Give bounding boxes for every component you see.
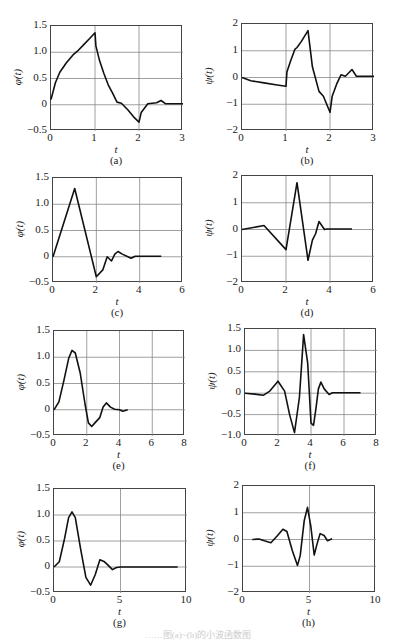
y-tick-label: 0 [17, 98, 47, 109]
y-tick-label: 2 [208, 17, 238, 28]
x-tick-label: 2 [85, 284, 105, 295]
y-axis-label: ψ(t) [203, 523, 215, 553]
y-axis-label: ψ(t) [202, 61, 214, 91]
x-tick-label: 0 [42, 284, 62, 295]
y-tick-label: 1 [208, 44, 238, 55]
x-tick-label: 2 [128, 132, 148, 143]
data-line [242, 31, 374, 113]
y-tick-label: 1.0 [211, 343, 241, 354]
panel-caption: (e) [99, 459, 139, 471]
x-tick-label: 2 [319, 132, 339, 143]
figure-footer: ……图(a)~(h)的小波函数图 [0, 628, 396, 641]
x-tick-label: 4 [300, 437, 320, 448]
plot-area [53, 330, 184, 435]
y-tick-label: −1 [208, 97, 238, 108]
x-tick-label: 2 [267, 437, 287, 448]
x-tick-label: 3 [363, 132, 383, 143]
plot-area [241, 23, 373, 130]
data-line [51, 33, 183, 122]
plot-area [244, 328, 376, 435]
y-tick-label: −1 [208, 249, 238, 260]
x-tick-label: 8 [366, 437, 386, 448]
y-axis-label: ψ(t) [205, 366, 217, 396]
x-tick-label: 3 [172, 132, 192, 143]
y-axis-label: φ(t) [14, 524, 26, 554]
x-tick-label: 10 [176, 594, 196, 605]
data-line [245, 335, 361, 433]
x-tick-label: 0 [232, 594, 252, 605]
x-tick-label: 0 [231, 132, 251, 143]
panel-caption: (g) [100, 616, 140, 628]
x-tick-label: 1 [84, 132, 104, 143]
y-axis-label: ψ(t) [202, 213, 214, 243]
y-tick-label: 1 [209, 506, 239, 517]
y-tick-label: 0 [20, 403, 50, 414]
x-tick-label: 2 [76, 437, 96, 448]
panel-caption: (d) [287, 306, 327, 318]
y-tick-label: 2 [208, 169, 238, 180]
x-tick-label: 2 [275, 284, 295, 295]
x-tick-label: 0 [231, 284, 251, 295]
y-tick-label: −1 [209, 559, 239, 570]
y-tick-label: 2 [209, 479, 239, 490]
data-line [54, 350, 128, 426]
y-tick-label: 1.5 [17, 19, 47, 30]
y-tick-label: 1.0 [20, 350, 50, 361]
panel-caption: (f) [290, 459, 330, 471]
y-tick-label: −0.5 [211, 408, 241, 419]
y-tick-label: 1.0 [17, 45, 47, 56]
data-line [53, 189, 161, 277]
panel-caption: (c) [97, 306, 137, 318]
x-tick-label: 6 [141, 437, 161, 448]
y-axis-label: φ(t) [14, 367, 26, 397]
y-tick-label: 1.5 [19, 171, 49, 182]
panel-caption: (h) [289, 616, 329, 628]
plot-area [242, 485, 375, 592]
y-tick-label: 1.0 [19, 197, 49, 208]
panel-caption: (a) [96, 154, 136, 166]
y-tick-label: 0 [19, 250, 49, 261]
plot-area [53, 488, 186, 592]
x-tick-label: 8 [174, 437, 194, 448]
x-tick-label: 5 [299, 594, 319, 605]
x-tick-label: 0 [43, 437, 63, 448]
data-line [252, 507, 332, 565]
y-tick-label: 1.5 [20, 324, 50, 335]
x-tick-label: 4 [109, 437, 129, 448]
y-tick-label: 0 [20, 560, 50, 571]
panel-caption: (b) [287, 154, 327, 166]
x-tick-label: 10 [365, 594, 385, 605]
x-tick-label: 4 [129, 284, 149, 295]
x-tick-label: 0 [40, 132, 60, 143]
plot-area [52, 177, 182, 282]
y-tick-label: 1.5 [211, 322, 241, 333]
x-tick-label: 6 [172, 284, 192, 295]
x-tick-label: 0 [234, 437, 254, 448]
y-tick-label: 1.5 [20, 482, 50, 493]
x-tick-label: 4 [319, 284, 339, 295]
y-axis-label: φ(t) [11, 62, 23, 92]
x-tick-label: 5 [110, 594, 130, 605]
data-line [242, 183, 352, 261]
x-tick-label: 6 [363, 284, 383, 295]
x-tick-label: 0 [43, 594, 63, 605]
x-tick-label: 6 [333, 437, 353, 448]
data-line [54, 512, 178, 585]
x-tick-label: 1 [275, 132, 295, 143]
y-tick-label: 1.0 [20, 508, 50, 519]
plot-area [50, 25, 182, 130]
plot-area [241, 175, 373, 282]
y-tick-label: 1 [208, 196, 238, 207]
y-axis-label: φ(t) [13, 214, 25, 244]
